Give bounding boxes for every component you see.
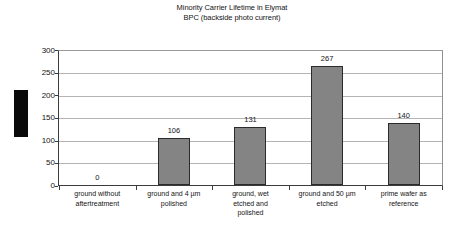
x-category-label-0-line-2: aftertreatment — [59, 199, 136, 209]
y-tick-mark-0 — [55, 186, 58, 187]
x-tick-mark-5 — [442, 186, 443, 190]
bar-value-label: 267 — [321, 55, 334, 63]
bar-series: 0 106 131 267 140 — [59, 51, 442, 185]
bar-group-ground-without-aftertreatment[interactable]: 0 — [59, 51, 136, 185]
x-category-label-0-line-1: ground without — [59, 189, 136, 199]
x-category-label-2: ground, wet etched and polished — [212, 189, 289, 218]
x-category-label-0: ground without aftertreatment — [59, 189, 136, 208]
bar-rect[interactable] — [311, 66, 343, 185]
bar-rect[interactable] — [234, 127, 266, 186]
y-tick-label-50: 50 — [25, 159, 55, 167]
x-category-label-4-line-1: prime wafer as — [365, 189, 442, 199]
x-category-label-3-line-1: ground and 50 µm — [289, 189, 366, 199]
x-category-label-4: prime wafer as reference — [365, 189, 442, 208]
chart-title-line-1: Minority Carrier Lifetime in Elymat — [0, 3, 464, 13]
x-axis-category-labels: ground without aftertreatment ground and… — [59, 189, 442, 237]
y-tick-label-100: 100 — [25, 137, 55, 145]
black-scan-mark — [14, 90, 28, 137]
x-category-label-4-line-2: reference — [365, 199, 442, 209]
bar-value-label: 140 — [397, 112, 410, 120]
bar-value-label: 106 — [168, 127, 181, 135]
y-tick-label-150: 150 — [25, 114, 55, 122]
x-category-label-3: ground and 50 µm etched — [289, 189, 366, 208]
chart-title-line-2: BPC (backside photo current) — [0, 13, 464, 23]
bar-chart: Minority Carrier Lifetime in Elymat BPC … — [0, 0, 464, 240]
bar-group-prime-wafer-as-reference[interactable]: 140 — [365, 51, 442, 185]
chart-title: Minority Carrier Lifetime in Elymat BPC … — [0, 3, 464, 23]
bar-value-label: 131 — [244, 116, 257, 124]
x-category-label-1-line-2: polished — [136, 199, 213, 209]
x-category-label-3-line-2: etched — [289, 199, 366, 209]
y-tick-label-300: 300 — [25, 47, 55, 55]
x-category-label-2-line-2: etched and — [212, 199, 289, 209]
y-tick-label-250: 250 — [25, 69, 55, 77]
bar-rect[interactable] — [158, 138, 190, 185]
x-category-label-2-line-1: ground, wet — [212, 189, 289, 199]
bar-group-ground-and-50um-etched[interactable]: 267 — [289, 51, 366, 185]
x-category-label-2-line-3: polished — [212, 208, 289, 218]
x-category-label-1-line-1: ground and 4 µm — [136, 189, 213, 199]
y-tick-label-200: 200 — [25, 92, 55, 100]
y-tick-label-0: 0 — [25, 182, 55, 190]
bar-rect[interactable] — [388, 123, 420, 186]
bar-group-ground-wet-etched-and-polished[interactable]: 131 — [212, 51, 289, 185]
bar-value-label: 0 — [95, 174, 99, 182]
bar-group-ground-and-4um-polished[interactable]: 106 — [136, 51, 213, 185]
x-category-label-1: ground and 4 µm polished — [136, 189, 213, 208]
